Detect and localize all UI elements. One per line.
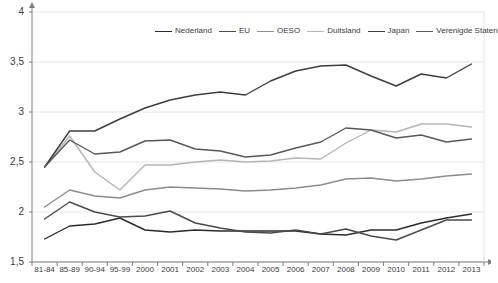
x-tick-label: 2006 xyxy=(287,266,305,274)
x-tick-label: 2013 xyxy=(463,266,481,274)
x-tick-label: 2000 xyxy=(136,266,154,274)
x-tick-label: 95-99 xyxy=(110,266,130,274)
x-tick-label: 85-89 xyxy=(59,266,79,274)
x-tick-label: 2002 xyxy=(186,266,204,274)
x-tick-label: 2011 xyxy=(413,266,430,274)
x-tick-label: 81-84 xyxy=(34,266,54,274)
x-tick-label: 2010 xyxy=(387,266,405,274)
x-tick-label: 2009 xyxy=(362,266,380,274)
x-tick-label: 2007 xyxy=(312,266,330,274)
x-tick-label: 2003 xyxy=(211,266,229,274)
x-tick-label: 90-94 xyxy=(85,266,105,274)
x-tick-label: 2001 xyxy=(161,266,179,274)
x-tick-label: 2008 xyxy=(337,266,355,274)
x-tick-label: 2012 xyxy=(437,266,455,274)
x-tick-label: 2004 xyxy=(237,266,255,274)
x-tick-label: 2005 xyxy=(262,266,280,274)
